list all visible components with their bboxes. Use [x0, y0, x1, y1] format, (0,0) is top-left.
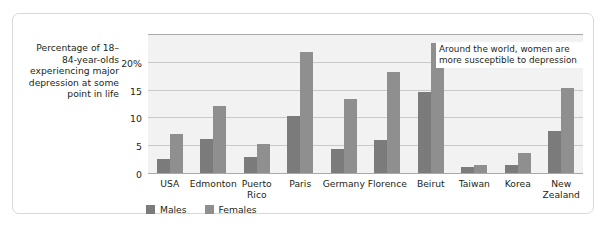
y-tick-label: 15 [130, 85, 142, 96]
legend-label-females: Females [219, 204, 257, 215]
x-category-label: Puerto Rico [242, 179, 272, 200]
x-category-label: New Zealand [543, 179, 580, 200]
x-category-label: Florence [368, 179, 407, 190]
legend-label-males: Males [160, 204, 187, 215]
y-tick-label: 5 [136, 141, 142, 152]
bar-male [244, 157, 257, 174]
bar-group: Paris [279, 35, 323, 174]
bar-female [344, 99, 357, 174]
x-category-label: Edmonton [190, 179, 237, 190]
legend-item-females: Females [205, 204, 257, 215]
y-tick-label: 10 [130, 113, 142, 124]
bar-male [418, 92, 431, 174]
x-category-label: Beirut [417, 179, 445, 190]
bar-group: Germany [322, 35, 366, 174]
bar-group: Puerto Rico [235, 35, 279, 174]
chart-annotation: Around the world, women are more suscept… [436, 42, 584, 68]
x-category-label: Paris [289, 179, 311, 190]
bar-male [548, 131, 561, 174]
bar-group: Florence [366, 35, 410, 174]
bar-male [287, 116, 300, 174]
legend-swatch-males-icon [146, 205, 155, 214]
bar-female [518, 153, 531, 174]
bar-female [561, 88, 574, 174]
x-category-label: Taiwan [459, 179, 490, 190]
x-category-label: Korea [505, 179, 531, 190]
bar-male [331, 149, 344, 174]
y-tick-label: 0 [136, 169, 142, 180]
legend-item-males: Males [146, 204, 187, 215]
bar-male [374, 140, 387, 174]
bar-female [387, 72, 400, 174]
bar-male [200, 139, 213, 174]
y-axis-caption: Percentage of 18–84-year-olds experienci… [27, 42, 119, 100]
bar-female [213, 106, 226, 174]
legend-swatch-females-icon [205, 205, 214, 214]
bar-female [300, 52, 313, 174]
x-category-label: USA [160, 179, 179, 190]
figure-frame: Percentage of 18–84-year-olds experienci… [12, 13, 594, 214]
bar-female [257, 144, 270, 174]
legend: Males Females [146, 204, 257, 215]
x-axis-line [148, 173, 583, 174]
y-tick-label: 20% [121, 57, 142, 68]
x-category-label: Germany [323, 179, 365, 190]
bar-female [170, 134, 183, 174]
bar-group: USA [148, 35, 192, 174]
bar-group: Edmonton [192, 35, 236, 174]
